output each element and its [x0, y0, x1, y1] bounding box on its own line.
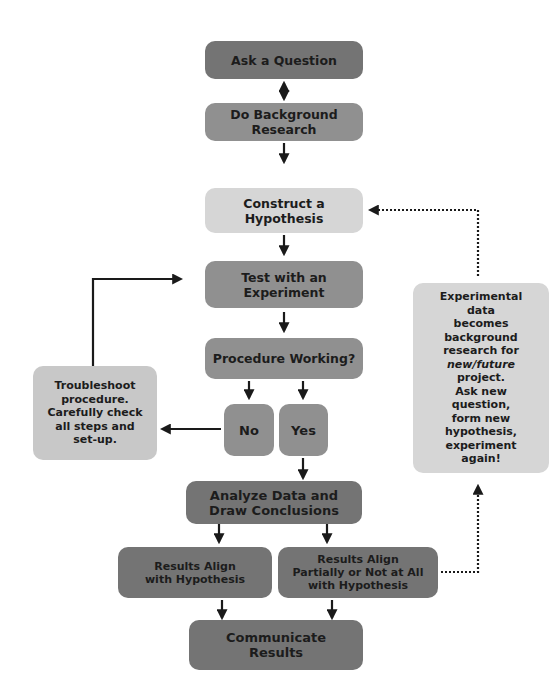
node-label: Communicate Results	[226, 630, 326, 660]
node-troubleshoot: Troubleshoot procedure. Carefully check …	[33, 366, 157, 460]
node-label: Procedure Working?	[213, 351, 355, 366]
arrow-results-partial-feedback	[441, 486, 478, 572]
node-experiment: Test with an Experiment	[205, 261, 363, 308]
node-analyze: Analyze Data and Draw Conclusions	[186, 481, 362, 524]
node-yes: Yes	[279, 404, 328, 456]
node-label: Test with an Experiment	[241, 270, 327, 300]
node-ask-question: Ask a Question	[205, 41, 363, 79]
node-procedure-working: Procedure Working?	[205, 338, 363, 379]
node-label: No	[239, 423, 259, 438]
node-label: Results Align with Hypothesis	[145, 560, 245, 586]
node-label: Do Background Research	[230, 107, 337, 137]
node-results-align: Results Align with Hypothesis	[118, 547, 272, 598]
node-label: Yes	[291, 423, 316, 438]
node-feedback: Experimental data becomes background res…	[413, 283, 549, 473]
node-communicate: Communicate Results	[189, 620, 363, 670]
node-label-part1: Experimental data becomes background res…	[440, 290, 522, 358]
node-results-partial: Results Align Partially or Not at All wi…	[278, 547, 438, 598]
node-label: Construct a Hypothesis	[243, 196, 324, 226]
node-hypothesis: Construct a Hypothesis	[205, 188, 363, 233]
node-label: Ask a Question	[231, 53, 337, 68]
arrow-feedback-hypothesis	[370, 210, 478, 276]
node-label-part2: project. Ask new question, form new hypo…	[445, 371, 517, 466]
node-label: Results Align Partially or Not at All wi…	[293, 553, 424, 592]
node-no: No	[224, 404, 274, 456]
node-label: Analyze Data and Draw Conclusions	[209, 488, 339, 518]
node-label: Troubleshoot procedure. Carefully check …	[47, 379, 142, 447]
node-background-research: Do Background Research	[205, 103, 363, 141]
node-label-italic: new/future	[447, 358, 515, 372]
arrow-troubleshoot-experiment	[93, 279, 181, 366]
